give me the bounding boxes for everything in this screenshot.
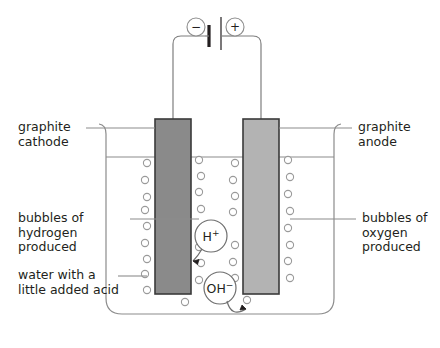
bubble [181, 298, 188, 305]
bubble [143, 193, 150, 200]
circuit-wiring [173, 36, 261, 119]
bubble [195, 188, 202, 195]
bubble [231, 159, 238, 166]
bubble [197, 205, 204, 212]
bubble [231, 241, 238, 248]
bubble [243, 296, 250, 303]
cation-charge: + [212, 228, 220, 238]
cell-positive-sign: + [226, 20, 244, 34]
anion-arrowhead [240, 305, 246, 310]
bubble [229, 258, 236, 265]
label-hydrogen-bubbles: bubbles of hydrogen produced [18, 211, 130, 255]
graphite-cathode-electrode [155, 119, 191, 294]
bubble [284, 224, 291, 231]
anion-symbol: OH [207, 281, 226, 296]
bubble [286, 274, 293, 281]
bubble [286, 173, 293, 180]
bubble [284, 190, 291, 197]
electrodes [155, 119, 279, 294]
label-electrolyte: water with a little added acid [18, 268, 122, 297]
bubble [143, 286, 150, 293]
label-oxygen-bubbles: bubbles of oxygen produced [362, 211, 440, 255]
bubble [195, 276, 202, 283]
wire-cathode-to-cell [173, 36, 205, 119]
bubble [195, 156, 202, 163]
electrolysis-diagram: graphite cathode graphite anode bubbles … [0, 0, 440, 348]
cation-label: H+ [196, 229, 226, 244]
anion-charge: − [226, 280, 234, 290]
label-graphite-cathode: graphite cathode [18, 120, 88, 149]
label-graphite-anode: graphite anode [358, 120, 436, 149]
bubble [229, 208, 236, 215]
cation-symbol: H [203, 229, 212, 244]
bubble [141, 206, 148, 213]
bubble [286, 241, 293, 248]
bubble [229, 176, 236, 183]
bubble [143, 255, 150, 262]
wire-anode-to-cell [237, 36, 261, 119]
bubble [197, 172, 204, 179]
bubble [231, 192, 238, 199]
anion-label: OH− [203, 281, 237, 296]
bubble [284, 257, 291, 264]
bubble [141, 176, 148, 183]
bubble [141, 239, 148, 246]
bubble [143, 222, 150, 229]
bubble [284, 156, 291, 163]
bubble [286, 207, 293, 214]
hydrogen-bubbles-left [141, 159, 150, 293]
bubble [143, 159, 150, 166]
cell-negative-sign: − [187, 20, 205, 34]
graphite-anode-electrode [243, 119, 279, 294]
